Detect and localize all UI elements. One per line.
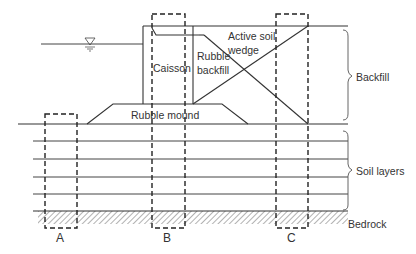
active-soil-wedge-label-1: Active soil [228,30,275,42]
column-a-label: A [56,232,64,244]
active-soil-wedge-label-2: wedge [228,44,259,56]
column-b-label: B [163,232,171,244]
soil-layers-brace [343,131,352,210]
caisson-label: Caisson [153,62,191,74]
bedrock-hatch [38,211,348,224]
diagram-canvas [0,0,416,254]
rubble-mound-label: Rubble mound [131,109,199,121]
column-box-c [276,14,308,228]
rubble-backfill-label-2: backfill [197,64,229,76]
rubble-backfill-label-1: Rubble [197,50,230,62]
backfill-label: Backfill [356,71,389,83]
soil-layers-label: Soil layers [356,165,404,177]
backfill-brace [343,30,352,120]
bedrock-label: Bedrock [348,218,387,230]
column-c-label: C [287,232,296,244]
column-box-b [152,14,185,228]
